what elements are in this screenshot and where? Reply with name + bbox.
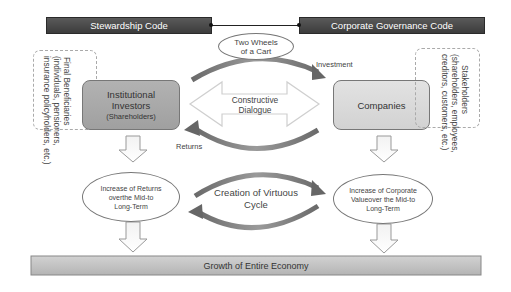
cycle-line-2: Cycle [208,199,304,211]
investors-line-1: Institutional [107,89,155,100]
down-arrow-icon-investors [119,136,147,162]
investment-label: Investment [316,60,353,69]
value-outcome-line-2: Valueover the Mid-to [349,195,417,204]
companies-label: Companies [357,100,405,111]
returns-outcome-line-3: Long-Term [100,202,161,211]
corporate-governance-code-bar: Corporate Governance Code [299,17,485,34]
code-connector-line [212,25,299,26]
cycle-line-1: Creation of Virtuous [208,187,304,199]
economy-bar: Growth of Entire Economy [31,256,481,275]
value-outcome-line-3: Long-Term [349,204,417,213]
corporate-value-outcome-oval: Increase of Corporate Valueover the Mid-… [333,174,433,224]
returns-outcome-oval: Increase of Returns overthe Mid-to Long-… [82,172,180,222]
dialogue-line-2: Dialogue [222,105,288,115]
stakeholders-detail-2: creditors, customers, etc.) [440,54,450,150]
returns-outcome-line-2: overthe Mid-to [100,193,161,202]
stakeholders-title: Stakeholders [460,65,470,114]
constructive-dialogue-text: Constructive Dialogue [222,95,288,115]
two-wheels-oval: Two Wheels of a Cart [218,33,294,60]
two-wheels-line-2: of a Cart [234,47,278,56]
economy-label: Growth of Entire Economy [203,261,308,271]
investors-line-2: Investors [112,100,151,111]
returns-outcome-line-1: Increase of Returns [100,184,161,193]
down-arrow-icon-companies [370,136,398,162]
virtuous-cycle-text: Creation of Virtuous Cycle [208,187,304,211]
down-arrow-icon-value [370,224,398,253]
connector-dot-left [209,23,213,27]
dialogue-line-1: Constructive [222,95,288,105]
returns-arc-icon [184,120,318,149]
stakeholders-detail-1: (shareholders, employees, [450,54,460,153]
investors-sub: (Shareholders) [106,111,156,122]
down-arrow-icon-returns [119,222,147,252]
connector-dot-right [297,23,301,27]
corporate-governance-code-label: Corporate Governance Code [331,20,453,31]
institutional-investors-box: Institutional Investors (Shareholders) [82,80,180,130]
returns-label: Returns [176,142,202,151]
stewardship-code-bar: Stewardship Code [46,17,212,34]
investment-arc-icon [192,59,326,80]
final-beneficiaries-detail-2: insurance policyholders, etc.) [42,56,52,164]
value-outcome-line-1: Increase of Corporate [349,186,417,195]
final-beneficiaries-text: Final Beneficiaries (individuals, pensio… [42,56,72,126]
final-beneficiaries-title: Final Beneficiaries [62,57,72,125]
final-beneficiaries-detail-1: (individuals, pensioners, [52,56,62,146]
two-wheels-line-1: Two Wheels [234,38,278,47]
stewardship-code-label: Stewardship Code [90,20,168,31]
stakeholders-text: Stakeholders (shareholders, employees, c… [440,54,470,124]
